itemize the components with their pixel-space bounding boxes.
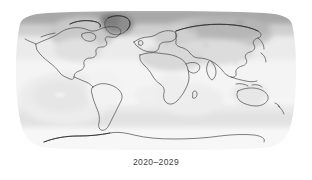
world-map-panel: [0, 0, 312, 152]
anomaly-shading-layer: [0, 0, 312, 152]
climate-map-figure: 2020–2029: [0, 0, 312, 180]
region-greenland-core: [100, 13, 120, 27]
speckle-pacific: [55, 93, 65, 98]
region-antarctica: [10, 128, 305, 152]
region-siberia-core: [186, 17, 270, 39]
region-southern-africa: [154, 74, 190, 102]
speckle-russia: [187, 28, 194, 32]
region-contiguous-united-states: [54, 38, 102, 62]
figure-caption: 2020–2029: [0, 157, 312, 168]
speckle-asia: [203, 43, 209, 47]
anomaly-blobs: [10, 8, 305, 152]
world-map-svg: [0, 0, 312, 152]
speckle-arctic-siberia: [236, 20, 244, 24]
speckle-china: [233, 61, 238, 64]
region-north-africa-mediterranean: [140, 45, 204, 71]
region-australia: [232, 83, 268, 105]
